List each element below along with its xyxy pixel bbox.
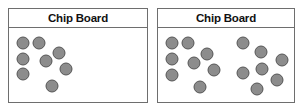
board-title: Chip Board [158, 9, 294, 28]
chip-icon [194, 81, 207, 94]
chip-icon [166, 37, 179, 50]
chip-icon [182, 37, 195, 50]
chip-icon [17, 37, 30, 50]
chip-icon [276, 54, 289, 67]
chip-icon [53, 47, 66, 60]
chip-icon [255, 46, 268, 59]
chip-icon [40, 55, 53, 68]
chip-icon [256, 63, 269, 76]
chip-icon [33, 37, 46, 50]
chip-icon [271, 74, 284, 87]
chip-icon [46, 80, 59, 93]
chip-icon [166, 69, 179, 82]
chip-icon [237, 67, 250, 80]
chip-icon [237, 37, 250, 50]
chip-icon [60, 63, 73, 76]
chip-board-left: Chip Board [8, 8, 148, 103]
chip-icon [251, 83, 264, 96]
chip-icon [17, 68, 30, 81]
chip-icon [208, 64, 221, 77]
chip-board-right: Chip Board [157, 8, 295, 103]
board-title: Chip Board [9, 9, 147, 28]
chip-icon [201, 48, 214, 61]
chip-icon [166, 53, 179, 66]
chip-icon [17, 53, 30, 66]
chip-icon [188, 57, 201, 70]
